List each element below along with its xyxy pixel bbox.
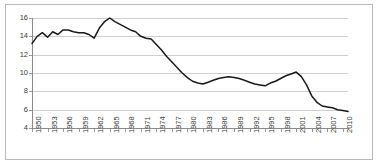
chart-figure: 16141210864 1950195319561959196219651968… [0, 0, 380, 167]
series-layer [0, 0, 380, 167]
line-series-1 [32, 18, 348, 112]
